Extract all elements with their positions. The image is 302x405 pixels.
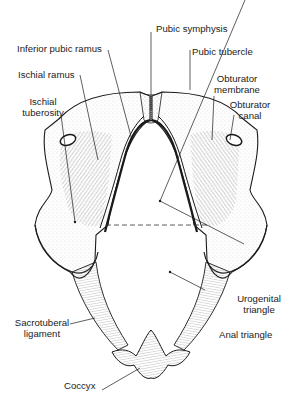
pelvis-illustration [0,0,302,405]
label-inferior-pubic-ramus: Inferior pubic ramus [17,44,102,55]
perineum-diagram: Pubic symphysis Inferior pubic ramus Pub… [0,0,302,405]
label-coccyx: Coccyx [64,381,95,392]
label-obturator-membrane: Obturator membrane [209,74,265,95]
label-anal-triangle: Anal triangle [219,330,272,341]
label-ischial-ramus: Ischial ramus [18,70,75,81]
label-obturator-canal: Obturator canal [226,100,274,121]
label-pubic-tubercle: Pubic tubercle [192,47,253,58]
label-pubic-symphysis: Pubic symphysis [156,24,227,35]
label-sacrotuberal-ligament: Sacrotuberal ligament [14,318,70,339]
label-ischial-tuberosity: Ischial tuberosity [22,97,64,118]
left-hip-bone [35,92,150,278]
label-urogenital-triangle: Urogenital triangle [236,294,282,315]
